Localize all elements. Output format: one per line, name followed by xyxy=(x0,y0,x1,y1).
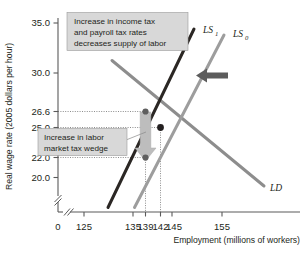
x-tick-label-6: 155 xyxy=(214,221,230,232)
x-tick-label-1: 125 xyxy=(76,221,92,232)
y-tick-label-0: 35.0 xyxy=(32,17,51,28)
y-tick-label-1: 30.0 xyxy=(32,67,51,78)
wedge-callout-line-0: Increase in labor xyxy=(44,133,104,142)
labor-market-tax-wedge-chart: Real wage rate (2005 dollars per hour) xyxy=(0,0,306,273)
tax-wedge-arrow xyxy=(135,112,156,161)
shift-callout-line-2: decreases supply of labor xyxy=(74,39,167,48)
figure-root: Real wage rate (2005 dollars per hour) xyxy=(0,0,306,273)
curve-label-ls0-group: LS 0 xyxy=(232,29,249,41)
wedge-callout-line-1: market tax wedge xyxy=(44,144,108,153)
curve-ld xyxy=(112,61,264,187)
x-tick-label-5: 145 xyxy=(166,221,182,232)
marker-equilibrium-after-wage xyxy=(142,108,148,114)
y-axis-title: Real wage rate (2005 dollars per hour) xyxy=(4,43,14,190)
x-ticks xyxy=(84,212,222,217)
curve-label-ls0: LS xyxy=(232,29,243,39)
x-tick-label-0: 0 xyxy=(55,221,60,232)
wedge-callout: Increase in labor market tax wedge xyxy=(38,129,146,156)
shift-callout-line-0: Increase in income tax xyxy=(74,17,155,26)
curve-label-ls1: LS xyxy=(202,25,213,35)
curve-label-ls0-subscript: 0 xyxy=(245,34,249,41)
y-tick-label-5: 20.0 xyxy=(32,172,51,183)
marker-equilibrium-before xyxy=(157,124,164,131)
y-tick-label-2: 26.6 xyxy=(32,106,51,117)
shift-callout: Increase in income tax and payroll tax r… xyxy=(67,13,188,51)
curve-label-ld: LD xyxy=(269,183,282,193)
y-break-1 xyxy=(55,195,62,202)
curve-label-ls1-subscript: 1 xyxy=(215,30,218,37)
x-break-1 xyxy=(64,209,70,216)
axis-break-marks xyxy=(55,195,74,216)
x-tick-label-3: 139 xyxy=(138,221,154,232)
shift-callout-line-1: and payroll tax rates xyxy=(74,28,147,37)
curve-label-ls1-group: LS 1 xyxy=(202,25,218,37)
marker-after-tax-wage xyxy=(142,154,148,160)
x-axis-title: Employment (millions of workers) xyxy=(173,235,300,245)
